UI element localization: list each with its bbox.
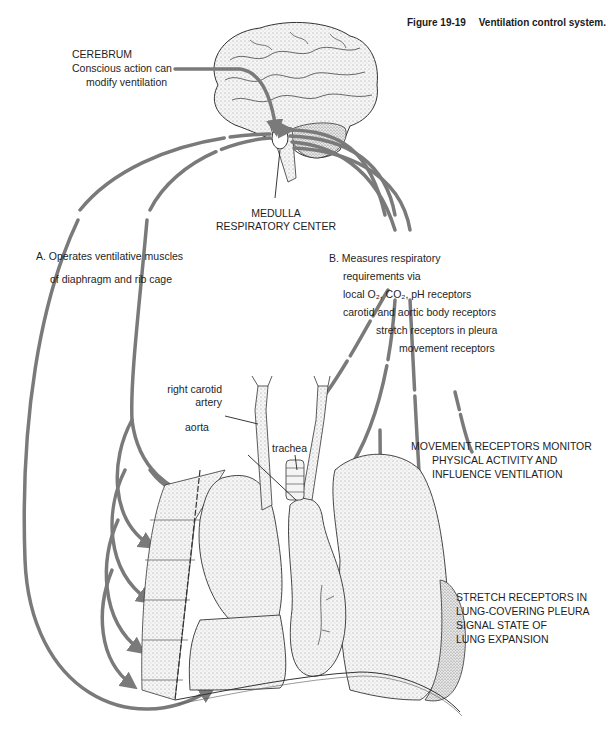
- label-medulla-line1: MEDULLA: [236, 207, 316, 220]
- label-medulla-line2: RESPIRATORY CENTER: [206, 220, 346, 233]
- label-stretch-line1: STRETCH RECEPTORS IN: [456, 591, 587, 604]
- label-measures-line3: local O₂, CO₂, pH receptors: [343, 288, 471, 301]
- figure-number: Figure 19-19: [407, 17, 466, 28]
- label-cerebrum-heading: CEREBRUM: [72, 48, 132, 61]
- brain-illustration: [214, 22, 377, 182]
- label-operates-line2: of diaphragm and rib cage: [50, 273, 172, 286]
- label-aorta: aorta: [185, 421, 209, 434]
- lungs-illustration: [175, 454, 466, 716]
- label-measures-line6: movement receptors: [399, 342, 495, 355]
- label-measures-line2: requirements via: [343, 270, 421, 283]
- label-stretch-line4: LUNG EXPANSION: [456, 633, 549, 646]
- trachea-and-arteries: [225, 150, 330, 510]
- label-carotid-line1: right carotid: [160, 383, 222, 396]
- label-measures-line5: stretch receptors in pleura: [376, 324, 497, 337]
- label-cerebrum-line1: Conscious action can: [72, 62, 172, 75]
- label-trachea: trachea: [272, 442, 307, 455]
- label-operates-line1: A. Operates ventilative muscles: [36, 250, 183, 263]
- label-carotid-line2: artery: [160, 396, 222, 409]
- label-stretch-line2: LUNG-COVERING PLEURA: [456, 605, 590, 618]
- figure-caption: Figure 19-19 Ventilation control system.: [407, 17, 606, 28]
- label-measures-line4: carotid and aortic body receptors: [343, 306, 496, 319]
- label-cerebrum-line2: modify ventilation: [86, 76, 167, 89]
- label-movement-line2: PHYSICAL ACTIVITY AND: [432, 454, 557, 467]
- figure-title: Ventilation control system.: [479, 17, 606, 28]
- label-measures-line1: B. Measures respiratory: [329, 252, 440, 265]
- label-movement-line1: MOVEMENT RECEPTORS MONITOR: [411, 440, 592, 453]
- label-stretch-line3: SIGNAL STATE OF: [456, 619, 547, 632]
- label-movement-line3: INFLUENCE VENTILATION: [432, 468, 563, 481]
